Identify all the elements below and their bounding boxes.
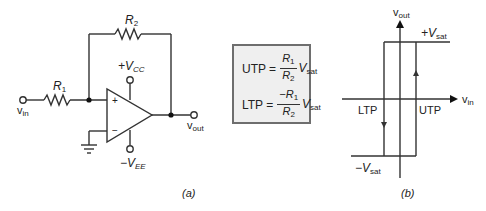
ltp-num-sub: 1 <box>294 93 298 102</box>
vout-axis-label: vout <box>393 6 410 20</box>
equation-box: UTP = R1 R2 Vsat LTP = −R1 R2 Vsat <box>232 44 311 124</box>
r2-label: R2 <box>125 13 139 28</box>
utp-vsat: Vsat <box>299 61 318 76</box>
vcc-terminal <box>127 77 133 83</box>
ltp-den-sub: 2 <box>290 110 294 119</box>
x-axis-arrow-icon <box>450 95 458 103</box>
vee-label: −VEE <box>120 156 146 171</box>
r1-resistor <box>44 95 70 105</box>
caption-a: (a) <box>182 187 196 199</box>
utp-axis-label: UTP <box>419 104 441 116</box>
up-arrow-icon <box>413 70 419 76</box>
utp-num: R <box>282 52 290 64</box>
utp-lhs: UTP = <box>242 62 276 76</box>
plus-input-sign: + <box>112 95 118 106</box>
utp-den: R <box>282 69 290 81</box>
y-axis-arrow-icon <box>396 20 404 28</box>
vin-label: vin <box>17 104 29 118</box>
ltp-equation: LTP = −R1 R2 Vsat <box>242 88 321 121</box>
caption-b: (b) <box>401 187 415 199</box>
vin-terminal <box>20 97 26 103</box>
utp-equation: UTP = R1 R2 Vsat <box>242 52 317 85</box>
minus-input-sign: − <box>112 125 118 136</box>
r1-label: R1 <box>53 79 67 94</box>
vout-terminal <box>191 112 197 118</box>
ltp-lhs: LTP = <box>242 98 273 112</box>
ltp-vsat: Vsat <box>302 97 321 112</box>
utp-fraction: R1 R2 <box>280 52 296 85</box>
r2-resistor <box>115 29 141 39</box>
vout-label: vout <box>187 119 204 133</box>
ltp-axis-label: LTP <box>358 104 377 116</box>
pos-sat-label: +Vsat <box>421 26 447 41</box>
vin-axis-label: vin <box>462 93 474 107</box>
vee-terminal <box>127 146 133 152</box>
utp-den-sub: 2 <box>290 74 294 83</box>
junction-dot-input <box>86 97 91 102</box>
ltp-num: −R <box>279 88 293 100</box>
neg-sat-label: −Vsat <box>355 161 381 176</box>
hysteresis-loop <box>342 27 451 178</box>
junction-dot-output <box>168 112 173 117</box>
ltp-fraction: −R1 R2 <box>277 88 300 121</box>
utp-num-sub: 1 <box>290 57 294 66</box>
vcc-label: +VCC <box>118 59 145 74</box>
down-arrow-icon <box>381 122 387 128</box>
